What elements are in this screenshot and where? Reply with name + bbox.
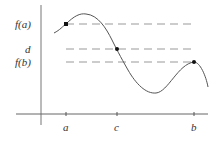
label-b: b (191, 121, 197, 133)
ivt-diagram: f(a) d f(b) a c b (0, 0, 220, 142)
label-c: c (114, 121, 119, 133)
point-c (115, 47, 119, 51)
label-fa: f(a) (15, 18, 31, 31)
label-a: a (63, 121, 69, 133)
point-b (192, 60, 196, 64)
function-curve (54, 14, 208, 93)
label-d: d (25, 43, 31, 55)
label-fb: f(b) (15, 56, 31, 69)
point-a (64, 22, 68, 26)
